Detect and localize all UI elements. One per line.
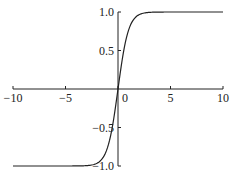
y-tick-label: 1.0 — [99, 5, 114, 19]
x-tick-label: −5 — [59, 91, 72, 105]
chart: −10−50510 1.00.5−0.5−1.0 — [0, 0, 230, 185]
x-tick-label: 10 — [217, 91, 229, 105]
y-tick-label: 0.5 — [99, 44, 114, 58]
x-tick-label: −10 — [4, 91, 23, 105]
x-tick-label: 0 — [122, 91, 128, 105]
y-tick-label: −1.0 — [92, 159, 114, 173]
x-tick-label: 5 — [168, 91, 174, 105]
